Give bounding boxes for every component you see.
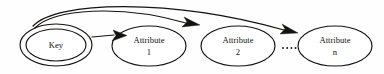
edge-key-to-attribute-1: [92, 35, 114, 37]
ellipsis-dot: [282, 47, 284, 49]
ellipsis-separator: [282, 47, 297, 49]
diagram-svg: Key Attribute 1 Attribute 2 Attribute n: [0, 0, 384, 74]
attribute-1-sublabel: 1: [147, 47, 151, 57]
arrowhead-to-attribute-2: [182, 17, 200, 27]
node-attribute-1[interactable]: Attribute 1: [112, 26, 186, 66]
attribute-1-label: Attribute: [133, 35, 164, 45]
node-key[interactable]: Key: [20, 24, 92, 66]
arrowhead-to-attribute-n: [280, 24, 298, 34]
key-label: Key: [49, 40, 64, 50]
ellipsis-dot: [295, 47, 297, 49]
ellipsis-dot: [286, 47, 288, 49]
attribute-2-label: Attribute: [222, 35, 253, 45]
node-attribute-2[interactable]: Attribute 2: [201, 26, 275, 66]
attribute-n-sublabel: n: [333, 47, 338, 57]
attribute-2-sublabel: 2: [236, 47, 240, 57]
attribute-n-label: Attribute: [319, 35, 350, 45]
er-diagram-canvas: Key Attribute 1 Attribute 2 Attribute n: [0, 0, 384, 74]
ellipsis-dot: [290, 47, 292, 49]
node-attribute-n[interactable]: Attribute n: [298, 26, 372, 66]
